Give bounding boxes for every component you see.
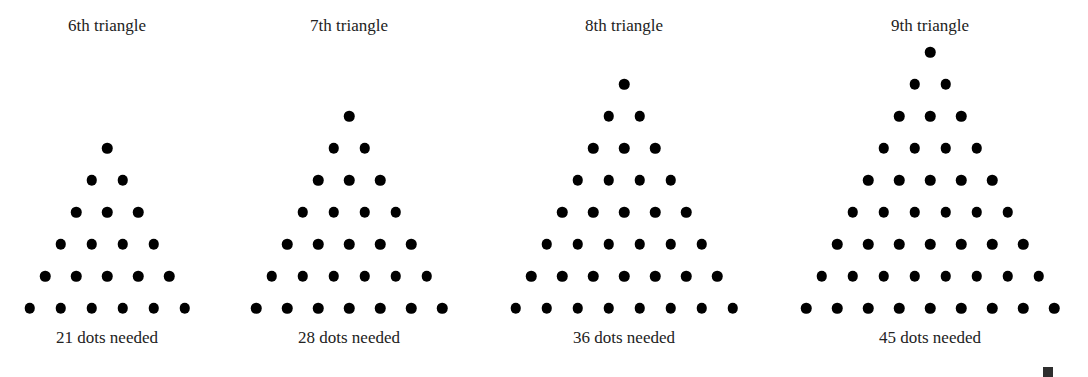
dot (603, 239, 614, 250)
dot (133, 207, 144, 218)
dot (437, 303, 448, 314)
dot (878, 271, 889, 282)
dot (634, 111, 645, 122)
dot (894, 303, 905, 314)
dot (863, 239, 874, 250)
dot (86, 303, 97, 314)
dot (878, 143, 889, 154)
dot (681, 207, 692, 218)
dot (297, 207, 308, 218)
triangle-caption: 28 dots needed (298, 329, 400, 346)
dot (572, 303, 583, 314)
dot (634, 175, 645, 186)
dot (634, 239, 645, 250)
triangle-title: 9th triangle (891, 17, 969, 34)
dot (696, 239, 707, 250)
dot (557, 271, 568, 282)
triangle-title: 6th triangle (68, 17, 146, 34)
dot (956, 111, 967, 122)
dot (940, 79, 951, 90)
dot (328, 207, 339, 218)
dot (526, 271, 537, 282)
dot (406, 303, 417, 314)
dot (55, 239, 66, 250)
dot (956, 303, 967, 314)
dot (71, 271, 82, 282)
dot (832, 303, 843, 314)
dot (282, 303, 293, 314)
dot (894, 239, 905, 250)
dot (650, 271, 661, 282)
dot (86, 239, 97, 250)
dot (619, 271, 630, 282)
dot (816, 271, 827, 282)
dot (925, 239, 936, 250)
dot (297, 271, 308, 282)
dot (971, 207, 982, 218)
dot (588, 207, 599, 218)
dot (665, 303, 676, 314)
dot (847, 207, 858, 218)
dot (71, 207, 82, 218)
dot (1018, 239, 1029, 250)
dot (801, 303, 812, 314)
dot (344, 175, 355, 186)
dot (909, 143, 920, 154)
dot (971, 143, 982, 154)
dot (251, 303, 262, 314)
dot (375, 239, 386, 250)
dot (1018, 303, 1029, 314)
dot (102, 271, 113, 282)
dot (266, 271, 277, 282)
dot (1049, 303, 1060, 314)
dot (102, 143, 113, 154)
dot (40, 271, 51, 282)
dot (956, 239, 967, 250)
dot (572, 239, 583, 250)
dot (557, 207, 568, 218)
dot (940, 143, 951, 154)
dot (375, 303, 386, 314)
dot (894, 111, 905, 122)
dot (956, 175, 967, 186)
dot (117, 239, 128, 250)
dot (24, 303, 35, 314)
dot (328, 143, 339, 154)
dot (987, 239, 998, 250)
dot (179, 303, 190, 314)
dot (164, 271, 175, 282)
dot (987, 175, 998, 186)
dot (603, 175, 614, 186)
dot (665, 175, 676, 186)
triangle-title: 8th triangle (585, 17, 663, 34)
end-of-proof-square-icon (1043, 367, 1053, 377)
dot (634, 303, 645, 314)
triangle-title: 7th triangle (310, 17, 388, 34)
dot (133, 271, 144, 282)
dot (588, 271, 599, 282)
dot (282, 239, 293, 250)
dot (102, 207, 113, 218)
dot (313, 303, 324, 314)
dot (1033, 271, 1044, 282)
dot (681, 271, 692, 282)
dot (117, 175, 128, 186)
dot (863, 303, 874, 314)
dot (909, 207, 920, 218)
triangle-caption: 36 dots needed (573, 329, 675, 346)
dot (510, 303, 521, 314)
dot (572, 175, 583, 186)
dot (909, 79, 920, 90)
dot (344, 111, 355, 122)
dot (619, 79, 630, 90)
dot (406, 239, 417, 250)
dot (313, 175, 324, 186)
dot (925, 175, 936, 186)
dot (344, 239, 355, 250)
dot (940, 271, 951, 282)
dot (847, 271, 858, 282)
dot (878, 207, 889, 218)
dot (894, 175, 905, 186)
dot (359, 143, 370, 154)
